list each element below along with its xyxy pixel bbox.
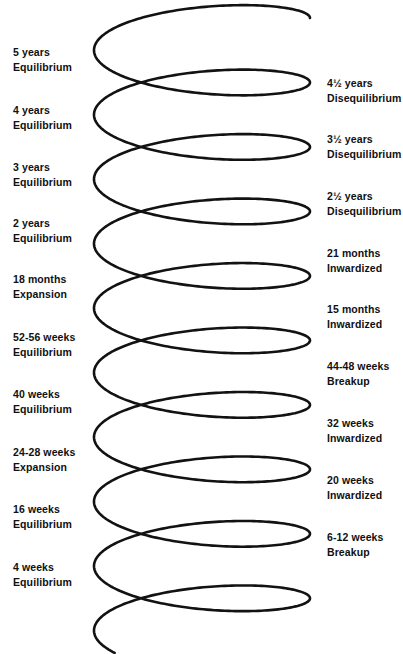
right-label: 4½ yearsDisequilibrium <box>327 76 401 105</box>
label-age: 21 months <box>327 246 382 261</box>
left-label: 4 weeksEquilibrium <box>13 560 72 589</box>
left-label: 5 yearsEquilibrium <box>13 45 72 74</box>
label-stage: Inwardized <box>327 431 382 446</box>
left-label: 18 monthsExpansion <box>13 272 67 301</box>
label-age: 4½ years <box>327 76 401 91</box>
label-stage: Inwardized <box>327 317 382 332</box>
right-label: 2½ yearsDisequilibrium <box>327 189 401 218</box>
label-stage: Equilibrium <box>13 175 72 190</box>
right-label: 15 monthsInwardized <box>327 302 382 331</box>
left-label: 52-56 weeksEquilibrium <box>13 330 75 359</box>
helix-curve <box>94 5 310 653</box>
label-age: 40 weeks <box>13 387 72 402</box>
right-label: 32 weeksInwardized <box>327 416 382 445</box>
label-stage: Equilibrium <box>13 517 72 532</box>
left-label: 3 yearsEquilibrium <box>13 160 72 189</box>
left-label: 16 weeksEquilibrium <box>13 502 72 531</box>
label-stage: Equilibrium <box>13 575 72 590</box>
left-label: 40 weeksEquilibrium <box>13 387 72 416</box>
label-age: 52-56 weeks <box>13 330 75 345</box>
label-stage: Equilibrium <box>13 345 75 360</box>
left-label: 2 yearsEquilibrium <box>13 216 72 245</box>
label-stage: Disequilibrium <box>327 204 401 219</box>
label-stage: Equilibrium <box>13 118 72 133</box>
spiral-development-figure: 5 yearsEquilibrium4 yearsEquilibrium3 ye… <box>0 0 403 654</box>
label-age: 2½ years <box>327 189 401 204</box>
label-age: 5 years <box>13 45 72 60</box>
right-label: 3½ yearsDisequilibrium <box>327 132 401 161</box>
label-age: 18 months <box>13 272 67 287</box>
label-stage: Equilibrium <box>13 402 72 417</box>
left-label: 24-28 weeksExpansion <box>13 445 75 474</box>
label-age: 24-28 weeks <box>13 445 75 460</box>
label-stage: Breakup <box>327 545 383 560</box>
right-label: 21 monthsInwardized <box>327 246 382 275</box>
label-age: 15 months <box>327 302 382 317</box>
label-age: 32 weeks <box>327 416 382 431</box>
label-age: 16 weeks <box>13 502 72 517</box>
label-age: 44-48 weeks <box>327 359 389 374</box>
label-age: 4 years <box>13 103 72 118</box>
label-stage: Disequilibrium <box>327 147 401 162</box>
label-age: 6-12 weeks <box>327 530 383 545</box>
label-age: 3½ years <box>327 132 401 147</box>
label-stage: Disequilibrium <box>327 91 401 106</box>
right-label: 20 weeksInwardized <box>327 473 382 502</box>
label-age: 4 weeks <box>13 560 72 575</box>
label-stage: Equilibrium <box>13 231 72 246</box>
left-label: 4 yearsEquilibrium <box>13 103 72 132</box>
label-stage: Breakup <box>327 374 389 389</box>
label-stage: Expansion <box>13 287 67 302</box>
label-stage: Equilibrium <box>13 60 72 75</box>
label-age: 3 years <box>13 160 72 175</box>
label-stage: Inwardized <box>327 261 382 276</box>
label-age: 2 years <box>13 216 72 231</box>
label-age: 20 weeks <box>327 473 382 488</box>
right-label: 44-48 weeksBreakup <box>327 359 389 388</box>
label-stage: Inwardized <box>327 488 382 503</box>
label-stage: Expansion <box>13 460 75 475</box>
right-label: 6-12 weeksBreakup <box>327 530 383 559</box>
